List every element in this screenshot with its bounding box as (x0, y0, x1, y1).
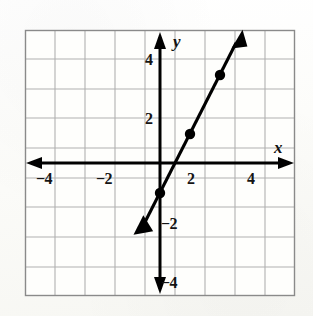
coordinate-graph-figure: x y −4 −2 2 4 4 2 −2 −4 (0, 0, 313, 316)
y-tick-label-minus-4: −4 (161, 275, 177, 291)
data-point (155, 188, 165, 198)
x-tick-label-minus-4: −4 (36, 171, 52, 187)
x-tick-label-minus-2: −2 (96, 171, 112, 187)
graph-svg (25, 30, 295, 296)
data-point (185, 129, 195, 139)
y-tick-label-2: 2 (145, 111, 153, 127)
x-axis-label: x (274, 139, 283, 156)
x-tick-label-2: 2 (187, 171, 195, 187)
y-axis-label: y (173, 33, 181, 50)
y-tick-label-4: 4 (145, 52, 153, 68)
plot-area (25, 30, 295, 296)
y-tick-label-minus-2: −2 (161, 216, 177, 232)
data-point (215, 70, 225, 80)
x-tick-label-4: 4 (247, 171, 255, 187)
